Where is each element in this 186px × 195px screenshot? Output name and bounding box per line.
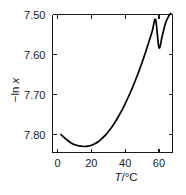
x-tick-label: 0 bbox=[55, 157, 61, 169]
x-tick-label: 20 bbox=[85, 157, 97, 169]
y-tick-label: 7.80 bbox=[24, 129, 45, 141]
y-axis-title: −ln x bbox=[9, 76, 21, 102]
x-tick-label: 40 bbox=[119, 157, 131, 169]
x-axis-title: T/°C bbox=[114, 171, 137, 183]
chart-figure: 7.507.607.707.80 0204060 −ln x T/°C bbox=[0, 0, 186, 195]
plot-area: 7.507.607.707.80 0204060 −ln x T/°C bbox=[0, 0, 186, 195]
y-tick-label: 7.60 bbox=[24, 49, 45, 61]
y-tick-label: 7.50 bbox=[24, 9, 45, 21]
y-tick-label: 7.70 bbox=[24, 89, 45, 101]
x-tick-label: 60 bbox=[153, 157, 165, 169]
